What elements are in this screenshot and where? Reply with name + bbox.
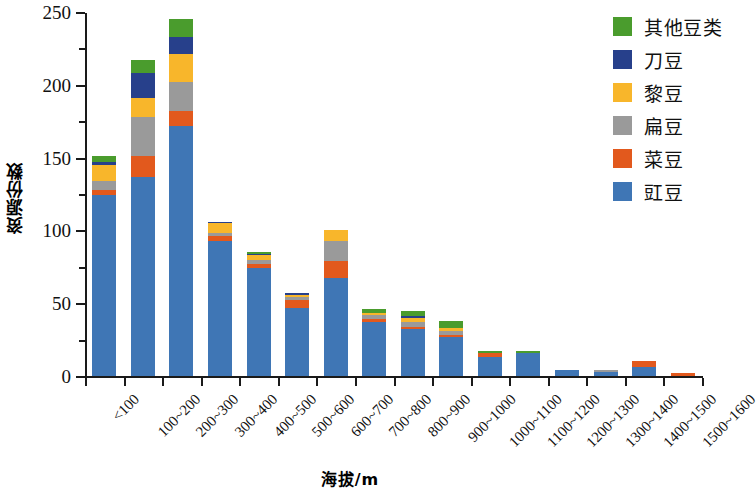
- x-axis-tick-label: 300~400: [232, 391, 282, 441]
- bar-segment[interactable]: [247, 268, 271, 376]
- x-axis-tick: [625, 378, 627, 386]
- bar-segment[interactable]: [92, 181, 116, 190]
- bar[interactable]: [169, 19, 193, 376]
- bar[interactable]: [671, 373, 695, 376]
- y-axis-tick-minor: [79, 267, 85, 269]
- bar-segment[interactable]: [131, 60, 155, 73]
- bar-segment[interactable]: [169, 126, 193, 376]
- bar-segment[interactable]: [362, 322, 386, 376]
- x-axis-tick: [509, 378, 511, 386]
- bar-segment[interactable]: [516, 353, 540, 376]
- legend-color-swatch-icon: [613, 83, 632, 102]
- bar-segment[interactable]: [324, 278, 348, 376]
- legend-color-swatch-icon: [613, 116, 632, 135]
- bar-segment[interactable]: [169, 111, 193, 126]
- y-axis-tick-major: [76, 158, 85, 160]
- legend-item-label: 扁豆: [644, 112, 683, 139]
- bar[interactable]: [401, 311, 425, 376]
- bar[interactable]: [439, 321, 463, 376]
- bar-segment[interactable]: [169, 82, 193, 111]
- bar-segment[interactable]: [169, 54, 193, 82]
- bar-segment[interactable]: [131, 177, 155, 376]
- bar-segment[interactable]: [324, 261, 348, 278]
- bar-segment[interactable]: [131, 98, 155, 117]
- bar[interactable]: [362, 309, 386, 376]
- bar[interactable]: [632, 361, 656, 376]
- legend-item[interactable]: 黎豆: [613, 76, 753, 109]
- legend-item[interactable]: 刀豆: [613, 43, 753, 76]
- bar[interactable]: [92, 156, 116, 376]
- bar-segment[interactable]: [439, 321, 463, 328]
- bar-segment[interactable]: [131, 73, 155, 98]
- bar-segment[interactable]: [208, 223, 232, 233]
- x-axis-tick: [548, 378, 550, 386]
- bar-segment[interactable]: [169, 19, 193, 36]
- legend-item[interactable]: 其他豆类: [613, 10, 753, 43]
- legend-item[interactable]: 菜豆: [613, 142, 753, 175]
- y-axis-tick-label: 100: [43, 220, 72, 242]
- legend-item-label: 豇豆: [644, 178, 683, 205]
- bar-segment[interactable]: [324, 241, 348, 261]
- x-axis-tick: [162, 378, 164, 386]
- x-axis-tick: [201, 378, 203, 386]
- x-axis-title: 海拔/m: [0, 466, 700, 490]
- bar-segment[interactable]: [671, 373, 695, 376]
- bar-segment[interactable]: [285, 300, 309, 307]
- bar-segment[interactable]: [632, 367, 656, 376]
- y-axis-tick-label: 200: [43, 75, 72, 97]
- y-axis-tick-label: 50: [52, 293, 71, 315]
- legend-item-label: 菜豆: [644, 145, 683, 172]
- x-axis-tick: [316, 378, 318, 386]
- legend-color-swatch-icon: [613, 149, 632, 168]
- bar-segment[interactable]: [401, 329, 425, 376]
- bar[interactable]: [208, 222, 232, 376]
- y-axis-tick-minor: [79, 194, 85, 196]
- legend-item[interactable]: 扁豆: [613, 109, 753, 142]
- bar[interactable]: [516, 351, 540, 376]
- bar[interactable]: [247, 252, 271, 376]
- x-axis-tick: [702, 378, 704, 386]
- legend-color-swatch-icon: [613, 50, 632, 69]
- x-axis-tick: [432, 378, 434, 386]
- y-axis-tick-minor: [79, 48, 85, 50]
- y-axis-tick-major: [76, 230, 85, 232]
- y-axis-tick-major: [76, 376, 85, 378]
- bar-segment[interactable]: [208, 241, 232, 376]
- bar-segment[interactable]: [439, 337, 463, 376]
- bar[interactable]: [285, 293, 309, 376]
- y-axis-tick-major: [76, 303, 85, 305]
- x-axis-tick: [394, 378, 396, 386]
- stacked-bar-chart: 资源份数 050100150200250 <100100~200200~3003…: [0, 0, 756, 497]
- legend-item[interactable]: 豇豆: [613, 175, 753, 208]
- legend-color-swatch-icon: [613, 182, 632, 201]
- y-axis-tick-major: [76, 85, 85, 87]
- bar-segment[interactable]: [131, 156, 155, 176]
- legend-item-label: 刀豆: [644, 46, 683, 73]
- bar-segment[interactable]: [324, 230, 348, 240]
- x-axis-tick: [586, 378, 588, 386]
- bar-segment[interactable]: [285, 308, 309, 376]
- legend: 其他豆类刀豆黎豆扁豆菜豆豇豆: [613, 10, 753, 208]
- y-axis-tick-label: 250: [43, 2, 72, 24]
- bar-segment[interactable]: [92, 165, 116, 181]
- x-axis-tick: [239, 378, 241, 386]
- bar[interactable]: [478, 351, 502, 376]
- x-axis-tick: [355, 378, 357, 386]
- bar-segment[interactable]: [169, 37, 193, 54]
- bar-segment[interactable]: [478, 357, 502, 376]
- bar-segment[interactable]: [555, 370, 579, 376]
- bar[interactable]: [594, 370, 618, 376]
- x-axis-tick-label: <100: [109, 391, 143, 425]
- x-axis-tick: [663, 378, 665, 386]
- y-axis-tick-major: [76, 12, 85, 14]
- bar[interactable]: [131, 60, 155, 376]
- legend-color-swatch-icon: [613, 17, 632, 36]
- bar[interactable]: [324, 230, 348, 376]
- y-axis-title: 资源份数: [2, 128, 28, 268]
- bar[interactable]: [555, 370, 579, 376]
- y-axis-tick-minor: [79, 340, 85, 342]
- y-axis-tick-label: 0: [62, 366, 72, 388]
- bar-segment[interactable]: [594, 372, 618, 376]
- bar-segment[interactable]: [92, 195, 116, 376]
- bar-segment[interactable]: [131, 117, 155, 156]
